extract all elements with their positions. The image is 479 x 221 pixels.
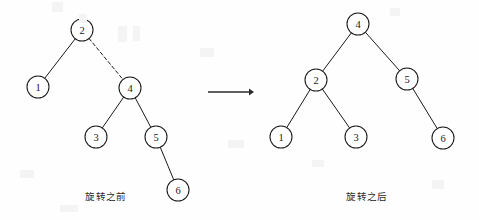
tree-node-label-2: 2 [313,75,318,86]
tree-node-label-2: 2 [79,25,84,36]
tree-node-label-6: 6 [440,133,445,144]
tree-node-label-5: 5 [404,74,409,85]
tree-node-label-1: 1 [35,82,40,93]
tree-node-label-4: 4 [127,83,133,94]
tree-edge-L2-L1 [45,39,76,79]
tree-node-label-3: 3 [353,132,358,143]
binary-tree-rotation-diagram: 214356 425136 旋转之前旋转之后 [0,0,479,221]
tree-node-label-6: 6 [175,185,180,196]
tree-node-label-3: 3 [93,132,98,143]
tree-node-label-5: 5 [153,132,158,143]
caption-before-rotation: 旋转之前 [85,191,127,202]
arrow-head-icon [249,88,254,95]
tree-edge-R2-R1 [287,89,310,127]
tree-after-rotation: 425136 [270,13,454,149]
tree-edge-L5-L6 [160,147,174,180]
figure-canvas: 214356 425136 旋转之前旋转之后 [0,0,479,221]
tree-before-rotation: 214356 [27,19,189,201]
tree-edge-L2-L4 [89,38,123,79]
figure-captions: 旋转之前旋转之后 [85,191,388,202]
tree-node-label-4: 4 [355,19,361,30]
tree-edge-R2-R3 [322,89,349,128]
tree-edge-R4-R2 [323,33,352,71]
tree-edge-R4-R5 [365,32,399,71]
tree-edge-R5-R6 [413,88,438,128]
tree-node-label-1: 1 [278,132,283,143]
transition-arrow [208,88,254,95]
caption-after-rotation: 旋转之后 [346,191,388,202]
tree-edge-L4-L5 [135,98,151,128]
tree-edge-L4-L3 [102,97,123,128]
